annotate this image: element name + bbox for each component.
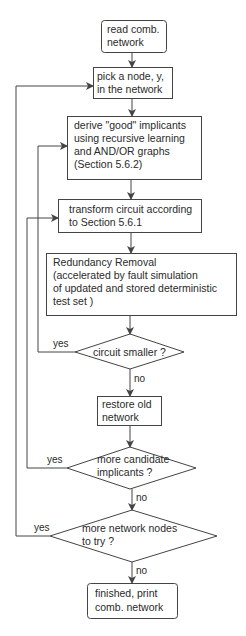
label-candidates-yes: yes <box>47 454 63 465</box>
node-redundancy-removal: Redundancy Removal (accelerated by fault… <box>47 254 237 316</box>
node-transform-circuit: transform circuit according to Section 5… <box>59 200 202 233</box>
node-derive-implicants: derive "good" implicants using recursive… <box>68 117 202 180</box>
node-redundancy-line-3: of updated and stored deterministic <box>53 282 217 294</box>
node-read-line-2: network <box>107 36 145 48</box>
decision-candidates-line-1: more candidate <box>97 453 170 465</box>
label-smaller-yes: yes <box>53 338 69 349</box>
node-redundancy-line-2: (accelerated by fault simulation <box>53 269 198 281</box>
node-restore-line-1: restore old <box>102 398 152 410</box>
node-derive-line-4: (Section 5.6.2) <box>74 158 142 170</box>
node-redundancy-line-4: test set ) <box>53 295 93 307</box>
node-restore-line-2: network <box>102 411 140 423</box>
decision-circuit-smaller: circuit smaller ? <box>75 334 184 369</box>
node-pick-node: pick a node, y, in the network <box>94 68 173 99</box>
label-candidates-no: no <box>136 492 148 503</box>
node-finished-line-1: finished, print <box>95 587 158 599</box>
node-read-network: read comb. network <box>102 21 167 53</box>
node-derive-line-3: and AND/OR graphs <box>74 145 170 157</box>
flowchart: read comb. network pick a node, y, in th… <box>0 0 246 636</box>
node-redundancy-line-1: Redundancy Removal <box>53 256 156 268</box>
node-finished: finished, print comb. network <box>88 584 178 619</box>
label-smaller-no: no <box>134 373 146 384</box>
decision-candidates-line-2: implicants ? <box>97 466 153 478</box>
node-read-line-1: read comb. <box>107 23 160 35</box>
decision-more-candidates: more candidate implicants ? <box>67 447 196 489</box>
node-transform-line-1: transform circuit according <box>69 203 192 215</box>
node-restore-network: restore old network <box>98 397 162 426</box>
decision-nodes-line-1: more network nodes <box>82 522 177 534</box>
node-derive-line-1: derive "good" implicants <box>74 119 186 131</box>
decision-nodes-line-2: to try ? <box>82 535 114 547</box>
decision-smaller-text: circuit smaller ? <box>93 346 166 358</box>
label-nodes-yes: yes <box>34 522 50 533</box>
node-transform-line-2: to Section 5.6.1 <box>69 216 142 228</box>
node-derive-line-2: using recursive learning <box>74 132 185 144</box>
node-finished-line-2: comb. network <box>95 601 164 613</box>
label-nodes-no: no <box>136 565 148 576</box>
node-pick-line-2: in the network <box>97 83 163 95</box>
node-pick-line-1: pick a node, y, <box>97 70 164 82</box>
decision-more-nodes: more network nodes to try ? <box>50 510 217 562</box>
